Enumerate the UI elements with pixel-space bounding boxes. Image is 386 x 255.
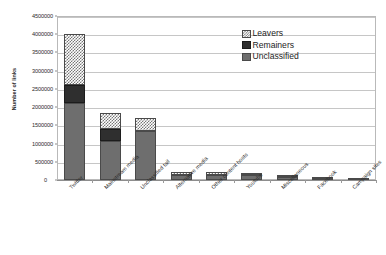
- stacked-bar-chart: Number of links 050000010000001500000200…: [0, 0, 386, 255]
- checkered-swatch: [242, 30, 251, 38]
- legend-label: Leavers: [253, 29, 284, 38]
- legend-label: Unclassified: [253, 52, 299, 61]
- x-axis-tick-mark: [270, 180, 271, 183]
- x-axis-zero-label: 0: [44, 177, 47, 183]
- bar-segment-remainers: [100, 129, 121, 141]
- y-axis-tick-label: 2500000: [9, 86, 53, 92]
- y-axis-tick-label: 1500000: [9, 122, 53, 128]
- x-axis-tick-mark: [341, 180, 342, 183]
- y-axis-tick-label: 4000000: [9, 31, 53, 37]
- x-axis-tick-mark: [305, 180, 306, 183]
- legend-item: Unclassified: [242, 51, 352, 63]
- x-axis-tick-mark: [163, 180, 164, 183]
- y-axis-tick-label: 1000000: [9, 141, 53, 147]
- bar-group: [100, 16, 121, 180]
- y-axis-tick-label: 3500000: [9, 49, 53, 55]
- x-axis-tick-mark: [92, 180, 93, 183]
- y-axis-tick-label: 500000: [9, 159, 53, 165]
- legend-label: Remainers: [253, 41, 295, 50]
- bar-group: [64, 16, 85, 180]
- y-axis-tick-label: 4500000: [9, 13, 53, 19]
- bar-segment-remainers: [64, 85, 85, 103]
- bar-segment-unclassified: [64, 103, 85, 180]
- x-axis-tick-mark: [199, 180, 200, 183]
- bar-segment-leavers: [64, 34, 85, 85]
- x-axis-tick-mark: [128, 180, 129, 183]
- bar-group: [171, 16, 192, 180]
- legend-item: Remainers: [242, 40, 352, 52]
- gray-swatch: [242, 53, 251, 61]
- y-axis-tick-label: 2000000: [9, 104, 53, 110]
- bar-segment-leavers: [135, 118, 156, 131]
- x-axis-tick-mark: [234, 180, 235, 183]
- y-axis-tick-label: 3000000: [9, 68, 53, 74]
- bar-group: [206, 16, 227, 180]
- chart-legend: LeaversRemainersUnclassified: [242, 28, 352, 63]
- legend-item: Leavers: [242, 28, 352, 40]
- x-axis-tick-mark: [376, 180, 377, 183]
- bar-segment-leavers: [100, 113, 121, 129]
- dark-swatch: [242, 41, 251, 49]
